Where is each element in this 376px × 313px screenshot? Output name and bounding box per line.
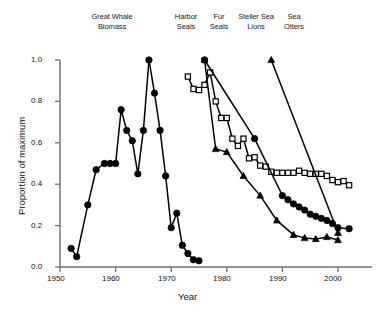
data-point (301, 207, 307, 213)
data-point (280, 170, 285, 175)
data-point (285, 197, 291, 203)
data-point (151, 90, 157, 96)
data-point (235, 143, 240, 148)
series-2 (201, 56, 341, 242)
data-point (162, 173, 168, 179)
data-point (246, 156, 251, 161)
data-point (124, 127, 130, 133)
data-point (93, 167, 99, 173)
data-point (146, 57, 152, 63)
data-point (202, 82, 207, 87)
series-line (205, 60, 338, 240)
plot-area (0, 0, 376, 313)
data-point (346, 226, 352, 232)
data-point (157, 127, 163, 133)
data-point (118, 106, 124, 112)
data-point (335, 180, 340, 185)
data-point (168, 224, 174, 230)
series-1 (185, 70, 351, 188)
data-point (330, 177, 335, 182)
data-point (112, 160, 118, 166)
chart-container: Great Whale Biomass Harbor Seals Fur Sea… (0, 0, 376, 313)
data-point (129, 138, 135, 144)
data-point (179, 242, 185, 248)
y-axis-ticks (55, 60, 60, 267)
data-point (196, 87, 201, 92)
data-point (196, 258, 202, 264)
data-point (279, 192, 285, 198)
data-point (230, 136, 235, 141)
data-point (68, 245, 74, 251)
data-point (213, 99, 218, 104)
data-point (251, 135, 257, 141)
data-point (324, 173, 329, 178)
data-point (274, 170, 279, 175)
data-point (73, 253, 79, 259)
data-point (296, 168, 301, 173)
series-0 (68, 57, 202, 264)
data-point (252, 155, 257, 160)
data-point (185, 250, 191, 256)
data-point (302, 170, 307, 175)
series-3 (201, 57, 352, 232)
data-point (308, 171, 313, 176)
data-point (291, 170, 296, 175)
data-point (268, 56, 275, 62)
data-point (241, 136, 246, 141)
data-point (201, 57, 207, 63)
data-point (347, 183, 352, 188)
data-point (285, 170, 290, 175)
data-point (319, 171, 324, 176)
x-axis-ticks (60, 267, 338, 272)
data-point (258, 163, 263, 168)
data-point (191, 86, 196, 91)
data-point (341, 178, 346, 183)
data-point (224, 115, 229, 120)
data-point (212, 145, 219, 151)
data-point (135, 171, 141, 177)
series-line (71, 60, 199, 261)
data-point (219, 115, 224, 120)
data-point (185, 74, 190, 79)
data-point (85, 202, 91, 208)
data-point (174, 210, 180, 216)
data-point (140, 127, 146, 133)
data-point (323, 233, 330, 239)
data-series-layer (68, 56, 352, 264)
